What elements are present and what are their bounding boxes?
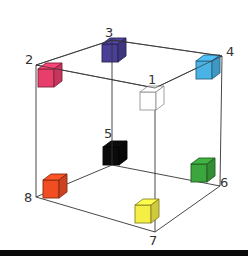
vertex-cube-7 — [135, 199, 159, 223]
vertex-label-5: 5 — [104, 127, 112, 140]
vertex-cube-6 — [191, 158, 215, 182]
edge-6-7 — [155, 186, 220, 232]
vertex-cube-8 — [43, 174, 67, 198]
edge-overlay-2-3 — [36, 40, 112, 65]
vertex-label-2: 2 — [25, 53, 33, 66]
vertex-label-8: 8 — [24, 191, 32, 204]
vertex-label-1: 1 — [148, 73, 156, 86]
vertex-cube-5 — [103, 141, 127, 165]
edge-overlay-3-4 — [112, 40, 222, 56]
vertex-label-7: 7 — [149, 234, 157, 247]
color-cube-diagram — [0, 0, 248, 256]
edge-4-6 — [220, 56, 222, 186]
cube-wireframe — [0, 0, 248, 256]
vertex-label-6: 6 — [220, 176, 228, 189]
vertex-cube-1 — [140, 86, 164, 110]
bottom-border-bar — [0, 250, 248, 256]
vertex-label-4: 4 — [226, 45, 234, 58]
vertex-label-3: 3 — [105, 26, 113, 39]
vertex-cube-2 — [38, 63, 62, 87]
